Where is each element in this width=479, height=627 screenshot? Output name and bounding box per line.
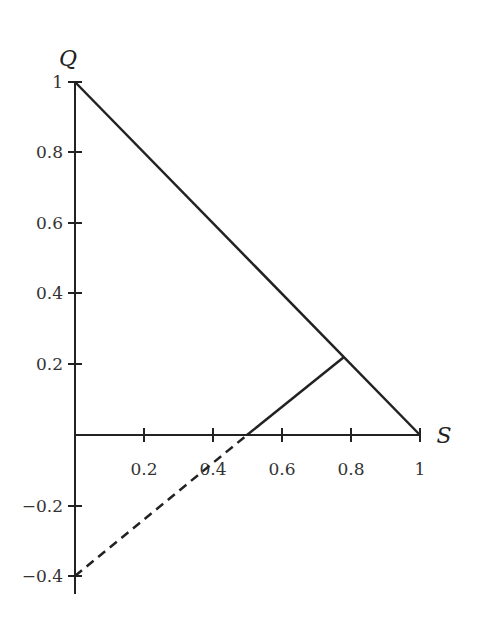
y-tick-label: 0.6 <box>36 213 63 233</box>
y-tick-label: −0.2 <box>22 496 63 516</box>
x-tick-label: 0.8 <box>337 459 364 479</box>
solid-segment <box>247 357 344 435</box>
x-tick-label: 0.2 <box>130 459 157 479</box>
x-tick-label: 0.4 <box>199 459 226 479</box>
y-tick-label: −0.4 <box>22 566 63 586</box>
x-axis-label: S <box>436 423 451 448</box>
y-axis-label: Q <box>59 46 77 71</box>
x-tick-label: 0.6 <box>268 459 295 479</box>
y-tick-label: 0.8 <box>36 142 63 162</box>
chart: 1 0.8 0.6 0.4 0.2 −0.2 −0.4 0.2 0.4 0.6 … <box>0 0 479 627</box>
dashed-segment <box>75 435 247 576</box>
y-tick-label: 0.2 <box>36 354 63 374</box>
x-tick-label: 1 <box>415 459 426 479</box>
y-tick-label: 1 <box>52 72 63 92</box>
y-tick-label: 0.4 <box>36 283 63 303</box>
diagonal-line <box>75 82 420 435</box>
